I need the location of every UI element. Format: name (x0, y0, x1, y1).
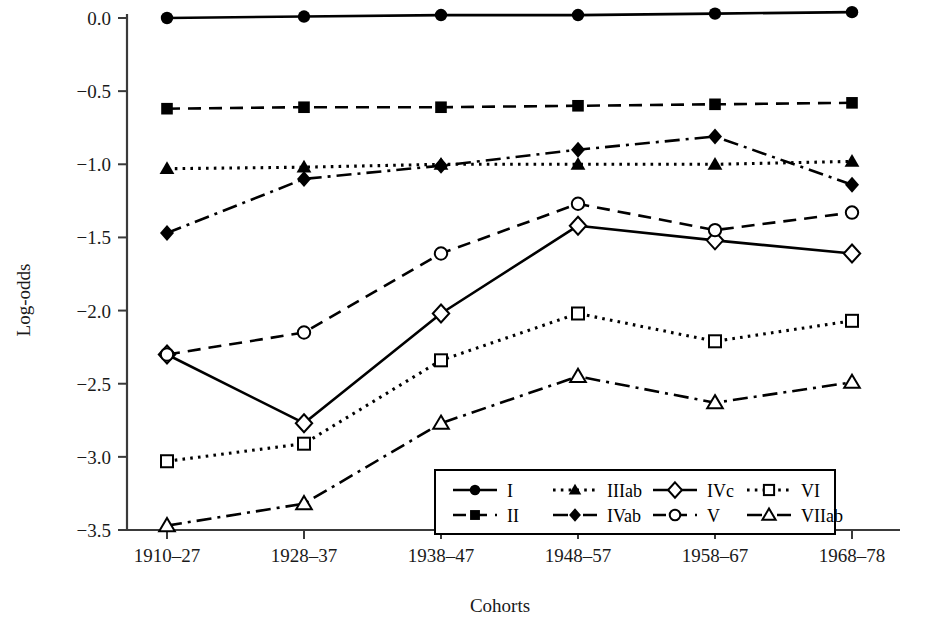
data-point-open-square (846, 315, 858, 327)
data-point-filled-square (298, 101, 310, 113)
data-point-filled-square (572, 100, 584, 112)
data-point-filled-circle (435, 9, 447, 21)
legend-label-IVab: IVab (607, 506, 641, 526)
y-axis-tick-label: −3.5 (77, 520, 111, 541)
data-point-filled-square (846, 97, 858, 109)
legend-label-IIIab: IIIab (607, 481, 642, 501)
y-axis-tick-label: −1.5 (77, 227, 111, 248)
y-axis-tick-label: −2.0 (77, 301, 111, 322)
x-axis-tick-label: 1928–37 (271, 545, 338, 566)
legend-label-VIIab: VIIab (801, 506, 843, 526)
data-point-filled-circle (709, 7, 721, 19)
x-axis-tick-label: 1910–27 (134, 545, 201, 566)
data-point-open-circle (298, 326, 310, 338)
data-point-filled-square (161, 103, 173, 115)
data-point-filled-square (435, 101, 447, 113)
x-axis-tick-label: 1938–47 (408, 545, 475, 566)
legend-label-IVc: IVc (707, 481, 734, 501)
data-point-open-square (764, 485, 774, 495)
y-axis-title: Log-odds (13, 264, 34, 337)
chart-legend[interactable]: IIIIIIabIVabIVcVVIVIIab (435, 470, 843, 534)
x-axis-tick-label: 1958–67 (682, 545, 749, 566)
data-point-filled-square (470, 510, 480, 520)
chart-figure: 0.0−0.5−1.0−1.5−2.0−2.5−3.0−3.51910–2719… (0, 0, 926, 628)
data-point-open-square (572, 307, 584, 319)
legend-label-VI: VI (801, 481, 820, 501)
y-axis-tick-label: −0.5 (77, 81, 111, 102)
data-point-open-square (161, 455, 173, 467)
data-point-open-square (709, 335, 721, 347)
y-axis-tick-label: 0.0 (87, 8, 111, 29)
x-axis-title: Cohorts (470, 595, 530, 616)
data-point-filled-circle (161, 12, 173, 24)
y-axis-tick-label: −2.5 (77, 374, 111, 395)
data-point-open-circle (435, 247, 447, 259)
data-point-open-circle (161, 348, 173, 360)
data-point-filled-circle (298, 10, 310, 22)
data-point-filled-square (709, 99, 721, 111)
data-point-filled-circle (846, 6, 858, 18)
legend-label-II: II (507, 506, 519, 526)
x-axis-tick-label: 1968–78 (819, 545, 886, 566)
data-point-open-circle (846, 206, 858, 218)
legend-label-V: V (707, 506, 720, 526)
data-point-open-circle (572, 198, 584, 210)
data-point-filled-circle (470, 485, 481, 496)
legend-label-I: I (507, 481, 513, 501)
data-point-open-circle (670, 510, 681, 521)
x-axis-tick-label: 1948–57 (545, 545, 612, 566)
data-point-open-square (435, 354, 447, 366)
data-point-open-square (298, 438, 310, 450)
data-point-filled-circle (572, 9, 584, 21)
y-axis-tick-label: −1.0 (77, 154, 111, 175)
line-chart-canvas: 0.0−0.5−1.0−1.5−2.0−2.5−3.0−3.51910–2719… (0, 0, 926, 628)
y-axis-tick-label: −3.0 (77, 447, 111, 468)
data-point-open-circle (709, 224, 721, 236)
